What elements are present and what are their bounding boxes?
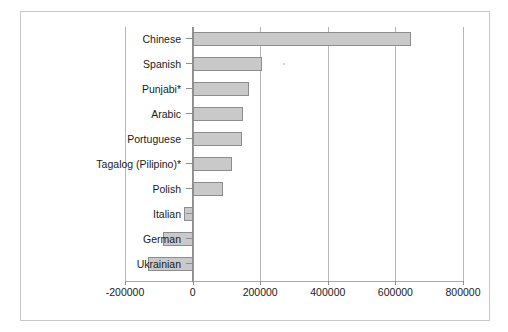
value-tick-mark [463, 281, 464, 285]
category-label-italian: Italian [153, 202, 181, 227]
category-tick-mark [186, 88, 193, 89]
value-tick-label-0: 0 [190, 286, 196, 298]
value-tick-mark [193, 281, 194, 285]
category-label-chinese: Chinese [142, 27, 181, 52]
category-tick-mark [186, 238, 193, 239]
bar [193, 82, 250, 96]
value-tick-mark [328, 281, 329, 285]
chart-figure: ChineseSpanishPunjabi*ArabicPortugueseTa… [0, 0, 508, 332]
bar [193, 157, 233, 171]
category-label-portuguese: Portuguese [127, 127, 181, 152]
bar [193, 57, 262, 71]
category-tick-mark [186, 38, 193, 39]
value-tick-mark [260, 281, 261, 285]
scan-speck-artifact [283, 63, 285, 65]
gridline-800000 [463, 27, 464, 281]
category-label-punjabi: Punjabi* [142, 77, 181, 102]
category-tick-mark [186, 63, 193, 64]
category-axis-labels: ChineseSpanishPunjabi*ArabicPortugueseTa… [0, 27, 181, 281]
value-axis-line [125, 281, 463, 282]
category-label-german: German [143, 227, 181, 252]
value-tick-label-800000: 800000 [445, 286, 480, 298]
bar [193, 132, 242, 146]
category-label-tagalog-pilipino: Tagalog (Pilipino)* [96, 152, 181, 177]
category-axis-line [192, 27, 193, 282]
category-label-spanish: Spanish [143, 52, 181, 77]
value-tick-label-400000: 400000 [310, 286, 345, 298]
category-label-polish: Polish [152, 177, 181, 202]
bar [193, 32, 411, 46]
category-tick-mark [186, 188, 193, 189]
value-tick-label-200000: 200000 [243, 286, 278, 298]
value-tick-label--200000: -200000 [106, 286, 145, 298]
value-axis-tick-labels: -2000000200000400000600000800000 [0, 286, 508, 306]
value-tick-label-600000: 600000 [378, 286, 413, 298]
value-tick-mark [125, 281, 126, 285]
category-tick-mark [186, 138, 193, 139]
bar [193, 182, 223, 196]
category-label-ukrainian: Ukrainian [137, 252, 181, 277]
category-tick-mark [186, 113, 193, 114]
category-label-arabic: Arabic [151, 102, 181, 127]
category-tick-mark [186, 263, 193, 264]
category-tick-mark [186, 213, 193, 214]
category-tick-mark [186, 163, 193, 164]
bar [193, 107, 243, 121]
value-tick-mark [395, 281, 396, 285]
